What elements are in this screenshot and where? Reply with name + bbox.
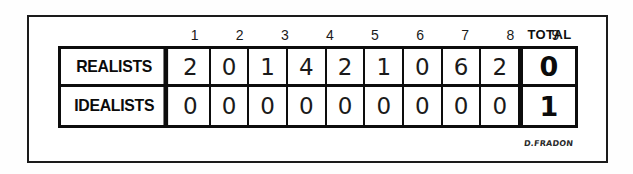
artist-signature: D.FRADON xyxy=(524,139,574,148)
inning-header-2: 2 xyxy=(217,24,262,46)
score-cell-idealists-6: 0 xyxy=(365,87,404,125)
inning-number-header-row: 1 2 3 4 5 6 7 8 9 xyxy=(172,24,578,46)
score-cell-idealists-2: 0 xyxy=(211,87,250,125)
inning-header-5: 5 xyxy=(352,24,397,46)
score-cell-realists-2: 0 xyxy=(211,49,250,84)
team-name-idealists: IDEALISTS xyxy=(65,87,168,125)
score-cell-realists-4: 4 xyxy=(288,49,327,84)
cartoon-panel: 1 2 3 4 5 6 7 8 9 TOTAL REALISTS 2 0 1 4… xyxy=(0,0,633,174)
inning-header-3: 3 xyxy=(262,24,307,46)
innings-group-idealists: 0 0 0 0 0 0 0 0 0 xyxy=(172,87,523,125)
score-cell-realists-9: 2 xyxy=(481,49,518,84)
score-cell-idealists-1: 0 xyxy=(172,87,211,125)
scoreboard-table: REALISTS 2 0 1 4 2 1 0 6 2 0 IDEALISTS 0… xyxy=(58,46,578,128)
score-cell-realists-6: 1 xyxy=(365,49,404,84)
inning-header-1: 1 xyxy=(172,24,217,46)
score-cell-realists-5: 2 xyxy=(327,49,366,84)
inning-header-4: 4 xyxy=(307,24,352,46)
score-cell-idealists-7: 0 xyxy=(404,87,443,125)
table-row: IDEALISTS 0 0 0 0 0 0 0 0 0 1 xyxy=(61,87,575,125)
table-row: REALISTS 2 0 1 4 2 1 0 6 2 0 xyxy=(61,49,575,87)
score-cell-realists-7: 0 xyxy=(404,49,443,84)
score-cell-idealists-3: 0 xyxy=(249,87,288,125)
score-cell-idealists-4: 0 xyxy=(288,87,327,125)
inning-header-6: 6 xyxy=(398,24,443,46)
score-cell-idealists-8: 0 xyxy=(443,87,482,125)
score-cell-realists-8: 6 xyxy=(443,49,482,84)
inning-header-7: 7 xyxy=(443,24,488,46)
score-cell-realists-1: 2 xyxy=(172,49,211,84)
total-column-header: TOTAL xyxy=(521,24,578,46)
innings-group-realists: 2 0 1 4 2 1 0 6 2 xyxy=(172,49,523,84)
score-cell-realists-3: 1 xyxy=(249,49,288,84)
total-cell-realists: 0 xyxy=(523,49,575,84)
team-name-realists: REALISTS xyxy=(65,49,168,84)
total-cell-idealists: 1 xyxy=(523,87,575,125)
score-cell-idealists-5: 0 xyxy=(327,87,366,125)
score-cell-idealists-9: 0 xyxy=(481,87,518,125)
